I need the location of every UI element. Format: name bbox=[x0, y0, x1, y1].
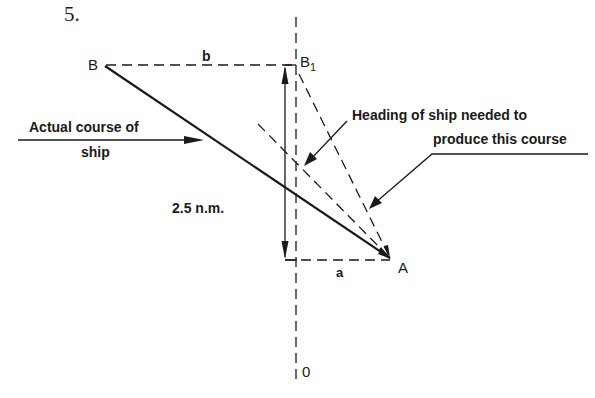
segment-b-label: b bbox=[202, 48, 211, 64]
actual-course-line bbox=[105, 66, 390, 258]
heading-pointer bbox=[310, 121, 347, 160]
arrowhead-down bbox=[282, 241, 289, 259]
actual-course-label-line1: Actual course of bbox=[29, 119, 139, 135]
heading-label-line2: produce this course bbox=[433, 131, 567, 147]
heading-dashed-line bbox=[258, 124, 388, 256]
distance-label: 2.5 n.m. bbox=[172, 200, 224, 216]
actual-course-label-line2: ship bbox=[81, 144, 110, 160]
heading-label-line1: Heading of ship needed to bbox=[352, 107, 527, 123]
diagram-canvas: 5. B B1 A 0 b a 2.5 n.m. Actual course o… bbox=[0, 0, 595, 398]
figure-number: 5. bbox=[64, 2, 80, 27]
b1-to-a-dashed-line bbox=[299, 74, 389, 256]
arrowhead-up bbox=[282, 66, 289, 84]
point-a-label: A bbox=[398, 259, 408, 276]
point-b-label: B bbox=[88, 56, 98, 73]
segment-a-label: a bbox=[336, 265, 343, 280]
origin-label: 0 bbox=[302, 363, 310, 380]
course-pointer bbox=[375, 154, 588, 203]
point-b1-label: B1 bbox=[300, 53, 316, 70]
